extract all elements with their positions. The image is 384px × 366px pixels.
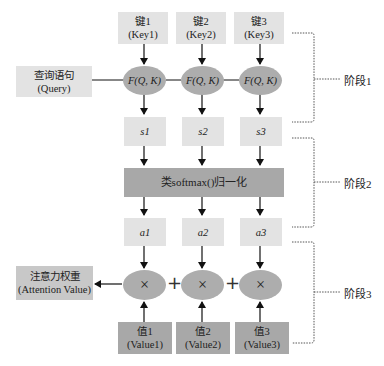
key-3-cn: 键3: [251, 15, 266, 28]
value-2-en: (Value2): [185, 338, 221, 351]
attention-value-box: 注意力权重 (Attention Value): [16, 266, 93, 300]
key-1-cn: 键1: [135, 15, 150, 28]
score-2: s2: [198, 125, 207, 138]
value-box-3: 值3 (Value3): [235, 322, 289, 354]
stage-2-label: 阶段2: [344, 175, 372, 191]
weight-box-3: a3: [240, 218, 282, 246]
score-box-3: s3: [240, 117, 282, 146]
stage-3-label: 阶段3: [344, 285, 372, 301]
multiply-node-3: ×: [239, 270, 282, 300]
similarity-fn-2: F(Q, K): [181, 66, 224, 95]
value-1-en: (Value1): [127, 338, 163, 351]
similarity-fn-1: F(Q, K): [123, 66, 166, 95]
value-3-en: (Value3): [244, 338, 280, 351]
plus-icon-1: +: [167, 272, 182, 293]
key-2-en: (Key2): [186, 28, 216, 41]
weight-1: a1: [140, 226, 151, 239]
similarity-fn-3: F(Q, K): [239, 66, 282, 95]
attention-cn: 注意力权重: [30, 270, 80, 283]
key-box-1: 键1 (Key1): [118, 12, 168, 44]
stage-1-label: 阶段1: [344, 72, 372, 88]
value-3-cn: 值3: [254, 325, 269, 338]
plus-icon-2: +: [225, 272, 240, 293]
multiply-node-1: ×: [123, 270, 166, 300]
query-box: 查询语句 (Query): [16, 66, 92, 97]
key-box-3: 键3 (Key3): [234, 12, 284, 44]
key-3-en: (Key3): [244, 28, 274, 41]
value-box-2: 值2 (Value2): [176, 322, 230, 354]
key-1-en: (Key1): [128, 28, 158, 41]
weight-2: a2: [198, 226, 209, 239]
weight-box-2: a2: [182, 218, 224, 246]
score-box-1: s1: [124, 117, 166, 146]
key-box-2: 键2 (Key2): [176, 12, 226, 44]
weight-3: a3: [256, 226, 267, 239]
value-1-cn: 值1: [137, 325, 152, 338]
value-box-1: 值1 (Value1): [118, 322, 172, 354]
softmax-label: 类softmax()归一化: [161, 176, 248, 189]
value-2-cn: 值2: [195, 325, 210, 338]
score-1: s1: [140, 125, 149, 138]
query-cn: 查询语句: [34, 69, 74, 82]
score-3: s3: [256, 125, 265, 138]
key-2-cn: 键2: [193, 15, 208, 28]
multiply-node-2: ×: [181, 270, 224, 300]
attention-en: (Attention Value): [18, 283, 91, 296]
softmax-normalize-box: 类softmax()归一化: [124, 168, 284, 197]
query-en: (Query): [37, 82, 70, 95]
weight-box-1: a1: [124, 218, 166, 246]
score-box-2: s2: [182, 117, 224, 146]
